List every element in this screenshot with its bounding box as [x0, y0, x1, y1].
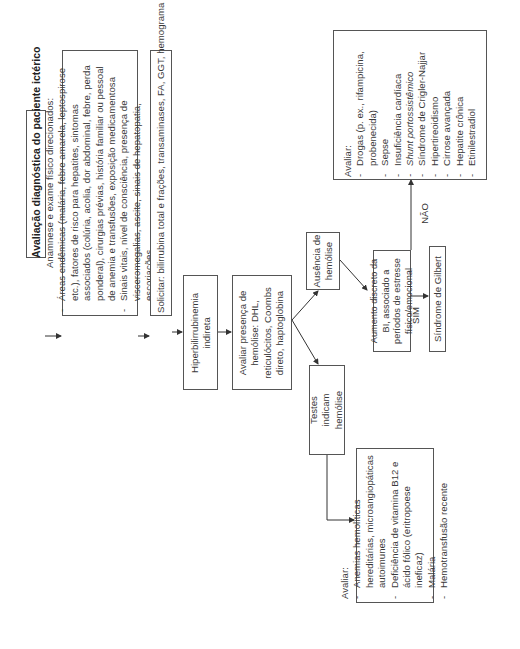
avaliar-outras-heading: Avaliar: [342, 33, 354, 177]
cause-item: Insuficiência cardíaca [391, 33, 403, 177]
edge-label-sim: SIM [410, 307, 421, 324]
cause-item: Síndrome de Crigler-Najjar [416, 33, 428, 177]
avaliar-causas-heading: Avaliar: [339, 453, 351, 599]
aumento-discreto-text: Aumento discreto da BI, associado a perí… [369, 255, 415, 347]
hiperbilirrubinemia-box: Hiperbilirrubinemia indireta [183, 275, 218, 390]
cause-item: Cirrose avançada [441, 33, 453, 177]
gilbert-text: Síndrome de Gilbert [431, 249, 443, 349]
anamnese-box: Anamnese e exame físico direcionados: Ár… [62, 50, 138, 316]
title-box: Avaliação diagnóstica do paciente ictéri… [26, 110, 46, 258]
anamnese-list: Áreas endêmicas (malária, febre amarela,… [57, 54, 156, 312]
testes-hemolise-box: Testes indicam hemólise [309, 365, 345, 455]
avaliar-causas-hemolise-box: Avaliar: Anemias hemolíticas hereditária… [356, 448, 434, 603]
cause-item: Hemotransfusão recente [438, 453, 450, 599]
anamnese-heading: Anamnese e exame físico direcionados: [44, 54, 56, 312]
avaliar-outras-causas-box: Avaliar: Drogas (p. ex., rifampicina, pr… [333, 30, 487, 180]
cause-item: Drogas (p. ex., rifampicina, probenecida… [354, 33, 379, 177]
cause-item: Sepse [379, 33, 391, 177]
cause-item: Shunt portossistêmico [404, 33, 416, 177]
ausencia-hemolise-box: Ausência de hemólise [306, 232, 340, 290]
solicitar-text: Solicitar: bilirrubina total e frações, … [155, 53, 167, 313]
aumento-discreto-box: Aumento discreto da BI, associado a perí… [373, 250, 411, 352]
diagram-title: Avaliação diagnóstica do paciente ictéri… [30, 110, 42, 258]
avaliar-hemolise-text: Avaliar presença de hemólise: DHL, retic… [237, 281, 287, 385]
avaliar-outras-list: Drogas (p. ex., rifampicina, probenecida… [354, 33, 478, 177]
avaliar-hemolise-box: Avaliar presença de hemólise: DHL, retic… [232, 275, 292, 390]
gilbert-box: Síndrome de Gilbert [429, 246, 446, 352]
edge-label-nao: NÃO [419, 203, 430, 224]
cause-item: Etinilestradiol [466, 33, 478, 177]
solicitar-box: Solicitar: bilirrubina total e frações, … [150, 50, 172, 316]
ausencia-hemolise-text: Ausência de hemólise [311, 234, 336, 288]
hiperbilirrubinemia-text: Hiperbilirrubinemia indireta [188, 283, 213, 383]
anamnese-item: Áreas endêmicas (malária, febre amarela,… [57, 54, 119, 312]
avaliar-causas-hemolise-content: Avaliar: Anemias hemolíticas hereditária… [339, 453, 451, 599]
anamnese-content: Anamnese e exame físico direcionados: Ár… [44, 54, 156, 312]
cause-item: Malária [426, 453, 438, 599]
cause-item: Hipertireoidismo [429, 33, 441, 177]
cause-item: Hepatite crônica [453, 33, 465, 177]
avaliar-causas-list: Anemias hemolíticas hereditárias, microa… [352, 453, 451, 599]
cause-item: Deficiência de vitamina B12 e ácido fóli… [389, 453, 426, 599]
avaliar-outras-causas-content: Avaliar: Drogas (p. ex., rifampicina, pr… [342, 33, 478, 177]
testes-hemolise-text: Testes indicam hemólise [308, 380, 345, 440]
cause-item: Anemias hemolíticas hereditárias, microa… [352, 453, 389, 599]
